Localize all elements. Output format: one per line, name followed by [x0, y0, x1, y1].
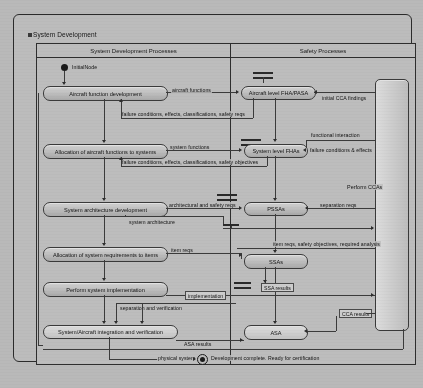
flow-sysfha-to-pssa: [275, 156, 276, 199]
node-ssas[interactable]: SSAs: [244, 254, 308, 269]
node-label: PSSAs: [267, 206, 285, 212]
node-allocation-aircraft-functions[interactable]: Allocation of aircraft functions to syst…: [43, 144, 168, 159]
flow-a3-to-pssa: [166, 208, 240, 209]
flow-fha-to-sysfha: [275, 98, 276, 139]
flow-a2-a3: [104, 157, 105, 198]
flow-cca-to-sysfha: [306, 140, 375, 141]
node-label: Aircraft function development: [69, 91, 141, 97]
flow-a3-arch-stub: [125, 215, 126, 217]
activity-diagram-icon: [28, 33, 32, 37]
flow-cca-to-pssa: [306, 208, 375, 209]
fork-bar-1: [253, 72, 273, 74]
arrowhead: [236, 90, 239, 94]
flow-a5-a6: [104, 295, 105, 321]
flow-sysfha-down: [267, 156, 268, 166]
arrowhead: [371, 293, 374, 297]
initial-node[interactable]: [61, 64, 68, 71]
fork-bar-3: [217, 194, 237, 196]
diagram-canvas: System Development System Development Pr…: [0, 0, 423, 388]
fork-bar-2: [241, 139, 261, 141]
flow-cca-results-down: [336, 316, 337, 331]
flow-label-failure-conditions-2: failure conditions, effects, classificat…: [121, 159, 259, 165]
node-label: ASA: [270, 330, 281, 336]
arrowhead: [114, 321, 118, 324]
node-perform-ccas[interactable]: [375, 79, 409, 331]
flow-label-asa-results: ASA results: [183, 341, 212, 347]
base-rail: [43, 349, 403, 350]
flow-a1-a2: [104, 99, 105, 140]
flow-sysfha-back-to-a2: [121, 166, 267, 167]
arrowhead: [239, 253, 242, 257]
flow-impl-to-cca: [226, 295, 375, 296]
node-label: Allocation of system requirements to ite…: [53, 252, 158, 258]
flow-a4-a5: [104, 260, 105, 278]
flow-label-failure-conditions-effects: failure conditions & effects: [309, 147, 373, 153]
node-aircraft-function-development[interactable]: Aircraft function development: [43, 86, 168, 101]
arrowhead: [102, 243, 106, 246]
flow-final-rail: [109, 359, 158, 360]
node-perform-system-implementation[interactable]: Perform system implementation: [43, 282, 168, 297]
flow-fork4-drop: [231, 226, 232, 228]
arrowhead: [193, 357, 196, 361]
arrowhead: [102, 321, 106, 324]
flow-label-architectural-safety-reqs: architectural and safety reqs: [168, 202, 237, 208]
feedback-rail-left: [38, 93, 39, 346]
arrowhead: [303, 148, 306, 152]
lane-label: Safety Processes: [300, 48, 347, 54]
arrowhead: [314, 90, 317, 94]
arrowhead: [102, 140, 106, 143]
fork-bar-5: [234, 282, 251, 284]
flow-fha-up-left: [253, 98, 254, 118]
final-node[interactable]: [197, 354, 208, 365]
lane-label: System Development Processes: [90, 48, 177, 54]
flow-a2-to-sysfha: [166, 150, 240, 151]
arrowhead: [263, 280, 267, 283]
flow-a4-to-ssa: [166, 253, 241, 254]
arrowhead: [239, 148, 242, 152]
flow-a5-to-impl: [166, 295, 185, 296]
flow-label-item-reqs: item reqs: [170, 247, 194, 253]
flow-sepver-rail: [116, 303, 236, 304]
object-node-implementation: implementation: [185, 291, 226, 300]
node-system-level-fha[interactable]: System level FHAs: [244, 144, 308, 158]
node-perform-ccas-label: Perform CCAs: [346, 184, 383, 190]
flow-cca-to-fha: [314, 92, 375, 93]
arrowhead: [273, 198, 277, 201]
arrowhead: [62, 82, 66, 85]
arrowhead: [273, 250, 277, 253]
flow-arch-to-fork: [223, 216, 224, 224]
flow-ssa-to-asa: [275, 267, 276, 321]
final-node-label: Development complete. Ready for certific…: [210, 355, 320, 361]
arrowhead: [102, 278, 106, 281]
node-label: SSAs: [269, 259, 283, 265]
swimlane-container: System Development Processes Safety Proc…: [36, 43, 416, 365]
flow-itemreqs-rail: [237, 248, 375, 249]
flow-sepver-down: [116, 303, 117, 321]
node-asa[interactable]: ASA: [244, 325, 308, 340]
arrowhead: [240, 338, 243, 342]
node-label: Perform system implementation: [66, 287, 145, 293]
flow-label-initial-cca-findings: initial CCA findings: [321, 95, 367, 101]
lane-header-safety: Safety Processes: [231, 44, 415, 58]
node-system-aircraft-integration[interactable]: System/Aircraft integration and verifica…: [43, 325, 178, 339]
flow-label-system-architecture: system architecture: [128, 219, 176, 225]
node-system-architecture-development[interactable]: System architecture development: [43, 202, 168, 217]
node-allocation-system-requirements[interactable]: Allocation of system requirements to ite…: [43, 247, 168, 262]
node-label: System architecture development: [64, 207, 147, 213]
flow-label-separation-reqs: separation reqs: [319, 202, 358, 208]
node-label: Aircraft level FHA/PASA: [249, 90, 309, 96]
arrowhead: [140, 321, 144, 324]
flow-forkbar1-down: [263, 77, 264, 83]
arrowhead: [273, 139, 277, 142]
arrowhead: [273, 321, 277, 324]
arrowhead: [119, 157, 123, 160]
flow-label-separation-and-verification: separation and verification: [119, 305, 183, 311]
node-pssas[interactable]: PSSAs: [244, 202, 308, 216]
arrowhead: [239, 206, 242, 210]
lane-divider: [230, 57, 231, 364]
flow-label-item-reqs-safety: item reqs, safety objectives, required a…: [272, 241, 381, 247]
flow-label-system-functions: system functions: [169, 144, 210, 150]
flow-a3-a4: [104, 215, 105, 243]
flow-cca-to-results: [366, 313, 375, 314]
lane-header-system-development: System Development Processes: [37, 44, 231, 58]
